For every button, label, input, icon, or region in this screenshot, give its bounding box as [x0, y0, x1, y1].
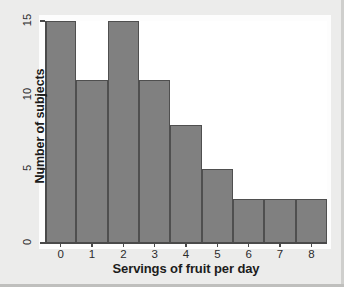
x-axis-tick	[185, 243, 187, 247]
x-axis-tick-label: 3	[145, 248, 165, 260]
y-axis-tick	[40, 242, 45, 244]
x-axis-tick-label: 6	[239, 248, 259, 260]
x-axis-tick	[248, 243, 250, 247]
y-axis-tick-label: 5	[21, 158, 33, 178]
x-axis-tick-label: 7	[270, 248, 290, 260]
bar	[264, 199, 295, 243]
bar	[45, 21, 76, 243]
x-axis-tick	[279, 243, 281, 247]
x-axis-tick	[311, 243, 313, 247]
y-axis-tick-label: 15	[21, 10, 33, 30]
y-axis-tick-label: 10	[21, 84, 33, 104]
bar	[202, 169, 233, 243]
x-axis-tick-label: 4	[176, 248, 196, 260]
x-axis-tick	[123, 243, 125, 247]
bar-series	[45, 21, 327, 243]
x-axis-tick	[154, 243, 156, 247]
bar	[76, 80, 107, 243]
x-axis-tick-label: 8	[301, 248, 321, 260]
x-axis-tick-label: 2	[113, 248, 133, 260]
y-axis-tick-label: 0	[21, 232, 33, 252]
histogram-figure: 051015 012345678 Number of subjects Serv…	[9, 9, 333, 273]
x-axis-tick-label: 1	[82, 248, 102, 260]
x-axis-title: Servings of fruit per day	[45, 261, 327, 276]
y-axis-tick	[40, 20, 45, 22]
bar	[233, 199, 264, 243]
bar	[139, 80, 170, 243]
y-axis-title: Number of subjects	[33, 41, 47, 211]
x-axis-tick-label: 0	[51, 248, 71, 260]
x-axis-tick	[91, 243, 93, 247]
screenshot-page: 051015 012345678 Number of subjects Serv…	[0, 0, 344, 287]
x-axis-tick	[217, 243, 219, 247]
x-axis-tick-label: 5	[207, 248, 227, 260]
bar	[170, 125, 201, 243]
bar	[108, 21, 139, 243]
bar	[296, 199, 327, 243]
x-axis-tick	[60, 243, 62, 247]
